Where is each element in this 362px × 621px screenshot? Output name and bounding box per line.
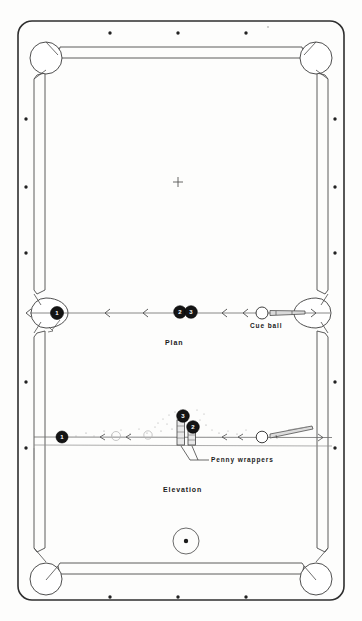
plan-view-group bbox=[26, 306, 330, 332]
plan-ball-1 bbox=[51, 307, 64, 320]
diamond-left-3 bbox=[24, 251, 27, 254]
pocket-top-right bbox=[300, 42, 332, 74]
cushion-right-upper bbox=[317, 73, 328, 294]
elevation-ball-1 bbox=[56, 431, 68, 443]
ghost-ball-2 bbox=[144, 431, 152, 439]
cushion-left-lower bbox=[34, 331, 45, 552]
cushion-left-upper bbox=[34, 73, 45, 294]
cue-ball-label: Cue ball bbox=[250, 322, 282, 329]
diamond-left-4 bbox=[24, 380, 27, 383]
elevation-ball-2-lower bbox=[187, 421, 200, 434]
diamond-top-2 bbox=[176, 31, 179, 34]
leader-line-right bbox=[192, 446, 198, 460]
diamond-right-4 bbox=[333, 380, 336, 383]
plan-view-label: Plan bbox=[165, 339, 183, 346]
diamond-left-2 bbox=[24, 185, 27, 188]
pocket-top-left bbox=[30, 42, 62, 74]
diamond-top-3 bbox=[244, 31, 247, 34]
diamond-right-2 bbox=[333, 185, 336, 188]
ghost-ball-1 bbox=[112, 432, 121, 441]
diamond-right-1 bbox=[333, 117, 336, 120]
plan-cue-ball bbox=[256, 307, 268, 319]
elevation-view-group bbox=[34, 410, 332, 461]
elevation-ball-3-upper bbox=[177, 410, 190, 423]
cushion-top bbox=[58, 47, 304, 58]
cushion-right-lower bbox=[317, 331, 328, 552]
elevation-view-label: Elevation bbox=[163, 486, 202, 493]
pocket-bottom-right bbox=[300, 563, 332, 595]
plan-ball-3 bbox=[185, 306, 198, 319]
elevation-ghost-balls bbox=[112, 431, 153, 441]
diamond-right-5 bbox=[333, 446, 336, 449]
diamond-left-5 bbox=[24, 446, 27, 449]
cushion-bottom bbox=[58, 563, 304, 574]
penny-wrapper-left bbox=[177, 420, 185, 445]
spotted-ball bbox=[173, 528, 199, 554]
penny-wrappers-leader-lines bbox=[181, 446, 209, 460]
diamond-bottom-1 bbox=[108, 595, 111, 598]
diamond-right-3 bbox=[333, 251, 336, 254]
diamond-left-1 bbox=[24, 117, 27, 120]
elevation-cue-stick bbox=[270, 426, 313, 439]
diamond-faint-mark bbox=[267, 26, 269, 28]
elevation-stipple-texture bbox=[76, 410, 247, 437]
billiard-table-illustration bbox=[0, 0, 362, 621]
diamond-bottom-3 bbox=[244, 595, 247, 598]
spotted-ball-center-dot bbox=[184, 539, 188, 543]
elevation-cue-ball bbox=[256, 431, 268, 443]
diamond-top-1 bbox=[108, 31, 111, 34]
table-center-cross bbox=[173, 177, 183, 187]
diamond-bottom-2 bbox=[176, 595, 179, 598]
pocket-bottom-left bbox=[30, 563, 62, 595]
billiard-diagram-page: 1 2 3 1 3 2 Plan Elevation Cue ball Penn… bbox=[0, 0, 362, 621]
penny-wrappers-label: Penny wrappers bbox=[211, 456, 274, 463]
